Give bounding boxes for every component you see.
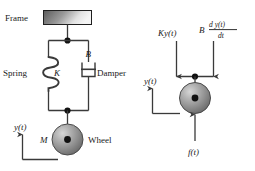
- mass-label: M: [39, 135, 48, 145]
- left-diagram: Frame Spring K B Damper M Wheel y(t): [3, 11, 126, 160]
- damper-force-denominator-label: dt: [218, 31, 225, 40]
- spring-force-label: Ky(t): [157, 28, 177, 38]
- wheel-left: [52, 124, 83, 155]
- y-label-left: y(t): [13, 122, 27, 132]
- input-force-label: f(t): [188, 147, 199, 157]
- spring-constant-label: K: [53, 68, 61, 78]
- damper-symbol: [81, 63, 96, 77]
- figure-canvas: Frame Spring K B Damper M Wheel y(t): [0, 0, 255, 171]
- damper-force-numerator-label: d y(t): [209, 20, 226, 29]
- damper-force-coeff-label: B: [199, 25, 205, 35]
- damper-constant-label: B: [86, 49, 92, 59]
- frame-block: [44, 11, 92, 25]
- spring-label: Spring: [3, 68, 28, 78]
- wheel-right: [180, 83, 211, 114]
- right-diagram: Ky(t) B d y(t) dt y(t) f(t): [143, 20, 237, 157]
- wheel-label: Wheel: [88, 135, 112, 145]
- y-label-right: y(t): [143, 76, 157, 86]
- damper-label: Damper: [97, 68, 126, 78]
- y-axis-right: [153, 89, 181, 114]
- frame-label: Frame: [5, 13, 28, 23]
